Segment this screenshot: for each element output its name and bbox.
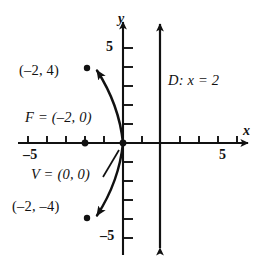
point-neg2-neg4 — [84, 215, 90, 221]
label-focus: F = (–2, 0) — [25, 110, 92, 125]
y-axis — [123, 22, 133, 255]
parabola-lower-branch — [97, 143, 123, 216]
parabola-figure: y x –5 5 5 –5 (–2, 4) (–2, –4) F = (–2, … — [0, 0, 264, 265]
point-focus — [82, 140, 89, 147]
x-axis-label: x — [243, 124, 250, 138]
x-tick-label-pos5: 5 — [219, 148, 226, 162]
y-axis-label: y — [118, 12, 124, 26]
x-tick-label-neg5: –5 — [23, 148, 37, 162]
parabola-upper-branch — [97, 71, 123, 144]
x-axis — [18, 136, 248, 143]
y-tick-label-pos5: 5 — [106, 40, 113, 54]
point-vertex — [120, 140, 127, 147]
coordinate-plane — [0, 0, 264, 265]
label-point-neg2-neg4: (–2, –4) — [12, 199, 60, 214]
label-vertex: V = (0, 0) — [31, 167, 90, 182]
label-point-neg2-4: (–2, 4) — [19, 63, 59, 78]
label-directrix: D: x = 2 — [168, 73, 219, 88]
y-tick-label-neg5: –5 — [100, 229, 114, 243]
point-neg2-4 — [84, 65, 90, 71]
